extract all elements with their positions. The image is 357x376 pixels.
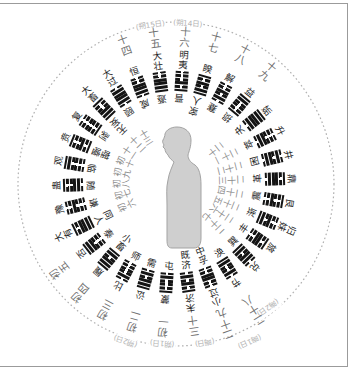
yin-line [279, 172, 282, 185]
hexagram-name-inner: 晋 [175, 93, 186, 104]
hexagram-name-outer: 蒙 [161, 293, 172, 304]
lunar-day-label: 二十三 [218, 175, 245, 186]
hexagram-name-inner: 遯 [157, 93, 168, 104]
hexagram-glyph [264, 172, 285, 186]
human-figure [163, 127, 201, 248]
hexagram-glyph [180, 271, 196, 294]
hexagram-name-outer: 艮 [283, 197, 295, 209]
hexagram-name-inner: 革 [253, 174, 263, 184]
yin-line [264, 172, 267, 185]
hexagram-glyph [62, 179, 83, 193]
hexagram-name-outer: 井 [281, 148, 293, 160]
yang-line [77, 179, 80, 192]
hexagram-name-inner: 临 [85, 162, 97, 174]
hexagram-name-outer: 大壮 [151, 51, 164, 72]
lunar-day-label: 初八 [112, 179, 130, 190]
hexagram-glyph [160, 272, 174, 294]
hexagram-name-outer: 蛊 [52, 181, 62, 191]
yang-line [268, 172, 271, 185]
hexagram-glyph [152, 71, 168, 94]
hexagram-name-outer: 观 [53, 156, 65, 168]
yang-line [73, 179, 76, 192]
hexagram-name-inner: 既济 [179, 250, 192, 271]
hexagram-name-inner: 随 [85, 180, 95, 190]
yang-line [272, 172, 275, 185]
hexagram-name-inner: 震 [251, 191, 263, 203]
hexagram-glyph [174, 70, 188, 92]
yang-line [275, 172, 278, 185]
yang-line [62, 179, 65, 192]
yin-line [66, 179, 69, 192]
lunar-day-label: 十六 [177, 26, 191, 49]
hexagram-name-outer: 鼎 [286, 173, 296, 183]
hexagram-name-inner: 谦 [86, 196, 98, 208]
yin-line [70, 179, 73, 192]
lunar-day-label: 初一 [157, 315, 171, 338]
hexagram-name-inner: 屯 [163, 260, 174, 271]
moon-label-text: (朔1日) [148, 338, 175, 351]
hexagram-name-outer: 明夷 [177, 50, 188, 71]
yin-line [81, 179, 84, 192]
